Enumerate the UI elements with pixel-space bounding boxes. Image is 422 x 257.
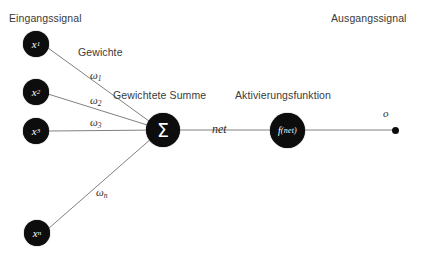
summation-node[interactable]: Σ xyxy=(146,113,180,147)
weight-label-w3-base: ω xyxy=(90,116,98,128)
input-node-x3[interactable]: x3 xyxy=(23,118,49,144)
activation-function-label: Aktivierungsfunktion xyxy=(235,89,331,101)
input-node-x2[interactable]: x2 xyxy=(23,79,49,105)
weight-label-w1-base: ω xyxy=(90,69,98,81)
input-node-xn-subscript: n xyxy=(38,229,42,237)
weight-label-w2-subscript: 2 xyxy=(98,99,102,108)
weight-label-w3: ω3 xyxy=(90,116,102,130)
weight-label-wn-subscript: n xyxy=(104,191,108,200)
wire-xn-to-sum xyxy=(48,131,160,229)
input-node-x1[interactable]: x1 xyxy=(23,31,49,57)
weight-label-wn-base: ω xyxy=(96,186,104,198)
weight-label-w2-base: ω xyxy=(90,94,98,106)
weights-label: Gewichte xyxy=(78,46,123,58)
weight-label-w1: ω1 xyxy=(90,69,102,83)
input-signal-title: Eingangssignal xyxy=(9,12,82,24)
wire-x3-to-sum xyxy=(49,130,160,131)
input-node-x3-subscript: 3 xyxy=(37,127,41,135)
activation-node[interactable]: f(net) xyxy=(270,113,305,148)
output-label: o xyxy=(383,107,389,119)
activation-node-arg: (net) xyxy=(281,126,297,135)
weight-label-w3-subscript: 3 xyxy=(98,121,102,130)
output-endpoint-dot xyxy=(392,127,399,134)
weight-label-w2: ω2 xyxy=(90,94,102,108)
output-signal-title: Ausgangssignal xyxy=(331,12,407,24)
net-label: net xyxy=(212,122,227,137)
input-node-xn[interactable]: xn xyxy=(24,220,50,246)
weight-label-w1-subscript: 1 xyxy=(98,74,102,83)
neuron-diagram: Eingangssignal Ausgangssignal Gewichte G… xyxy=(0,0,422,257)
input-node-x1-subscript: 1 xyxy=(37,40,41,48)
weighted-sum-label: Gewichtete Summe xyxy=(113,89,206,101)
connection-wires xyxy=(0,0,422,257)
summation-node-glyph: Σ xyxy=(157,121,169,140)
input-node-x2-subscript: 2 xyxy=(37,88,41,96)
weight-label-wn: ωn xyxy=(96,186,108,200)
